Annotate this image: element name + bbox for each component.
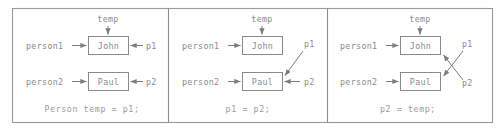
p1-label: p1 xyxy=(146,41,157,51)
temp-label: temp xyxy=(409,14,430,24)
object-box-john-label: John xyxy=(410,41,431,51)
reference-swap-diagram: temp John Paul person1 person2 p1 p2 Per… xyxy=(0,0,504,132)
panel-1-caption: Person temp = p1; xyxy=(44,104,139,114)
p2-label: p2 xyxy=(462,78,473,88)
person1-label: person1 xyxy=(182,41,219,51)
object-box-paul-label: Paul xyxy=(252,77,273,87)
object-box-john-label: John xyxy=(252,41,273,51)
panel-3-caption: p2 = temp; xyxy=(380,104,436,114)
temp-label: temp xyxy=(97,14,118,24)
p2-label: p2 xyxy=(304,77,315,87)
panel-2-caption: p1 = p2; xyxy=(226,104,271,114)
p1-label: p1 xyxy=(462,39,473,49)
person1-label: person1 xyxy=(340,41,377,51)
person2-label: person2 xyxy=(26,77,63,87)
p1-label: p1 xyxy=(304,39,315,49)
person1-label: person1 xyxy=(26,41,63,51)
p2-label: p2 xyxy=(146,77,157,87)
object-box-john-label: John xyxy=(98,41,119,51)
temp-label: temp xyxy=(251,14,272,24)
person2-label: person2 xyxy=(340,77,377,87)
person2-label: person2 xyxy=(182,77,219,87)
object-box-paul-label: Paul xyxy=(410,77,431,87)
object-box-paul-label: Paul xyxy=(98,77,119,87)
